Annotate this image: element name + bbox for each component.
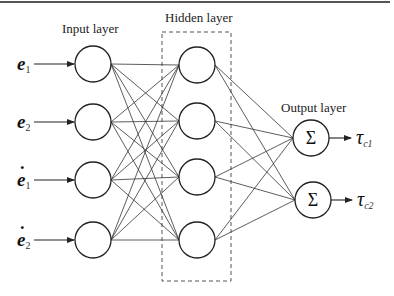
input-layer-label: Input layer (62, 21, 119, 36)
output-arrows (329, 138, 352, 200)
output-label-tau-c2: τc2 (357, 188, 374, 211)
hidden-layer (179, 47, 215, 258)
output-labels: τc1 τc2 (356, 126, 374, 211)
hidden-node-2 (179, 103, 215, 139)
hidden-output-edges (215, 65, 295, 240)
input-node-3 (75, 162, 111, 198)
sigma-icon: Σ (306, 128, 316, 148)
input-label-e1: e1 (17, 53, 30, 75)
dot-accent: ˙ (18, 163, 24, 184)
input-node-1 (75, 46, 111, 82)
input-layer (75, 46, 111, 258)
input-node-2 (75, 104, 111, 140)
output-label-tau-c1: τc1 (356, 126, 373, 149)
input-arrows (34, 64, 74, 240)
dot-accent: ˙ (18, 223, 24, 244)
hidden-node-3 (179, 159, 215, 195)
hidden-node-1 (179, 47, 215, 83)
output-layer: Σ Σ (293, 120, 331, 218)
hidden-layer-label: Hidden layer (165, 10, 233, 25)
input-node-4 (75, 222, 111, 258)
input-label-e2: e2 (17, 111, 30, 133)
neural-network-diagram: Input layer Hidden layer Output layer (0, 0, 394, 296)
input-hidden-edges (111, 64, 179, 240)
output-layer-label: Output layer (281, 100, 347, 115)
input-labels: e1 e2 e1 ˙ e2 ˙ (17, 53, 30, 251)
hidden-node-4 (179, 222, 215, 258)
sigma-icon: Σ (308, 190, 318, 210)
